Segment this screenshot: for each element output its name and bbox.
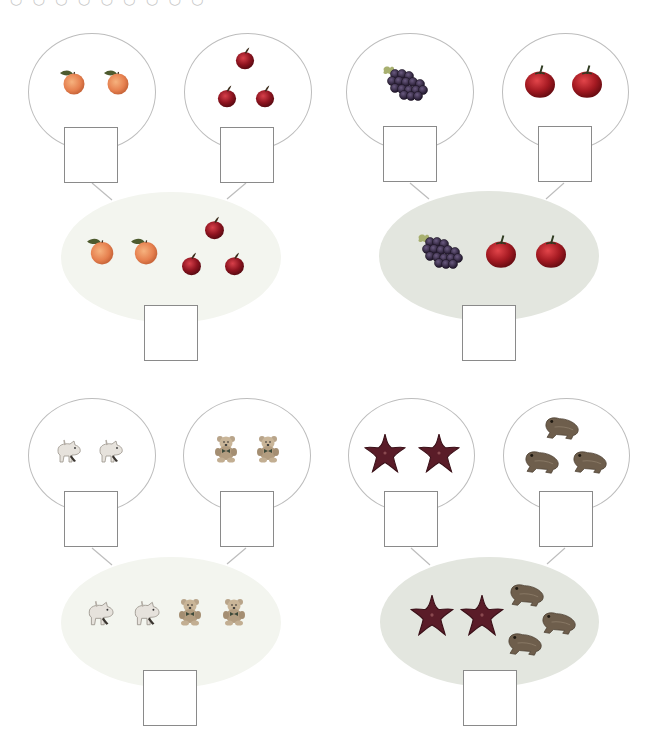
apple-icon bbox=[178, 250, 205, 277]
combined-set-items bbox=[61, 557, 281, 688]
frog-icon bbox=[523, 448, 561, 476]
apple-icon bbox=[221, 250, 248, 277]
combined-set-items bbox=[379, 191, 599, 321]
toy-pig-icon bbox=[54, 436, 84, 466]
combined-set-items bbox=[61, 192, 281, 323]
peach-icon bbox=[85, 234, 117, 266]
tomato-icon bbox=[533, 233, 569, 269]
frog-icon bbox=[543, 414, 581, 442]
toy-pig-icon bbox=[85, 597, 117, 629]
toy-pig-icon bbox=[96, 436, 126, 466]
right-count-answer-box[interactable] bbox=[538, 126, 592, 182]
starfish-icon bbox=[418, 432, 460, 474]
right-count-answer-box[interactable] bbox=[220, 491, 274, 547]
tomato-icon bbox=[569, 63, 605, 99]
teddy-bear-icon bbox=[219, 595, 249, 629]
total-count-answer-box[interactable] bbox=[463, 670, 517, 726]
peach-icon bbox=[102, 66, 132, 96]
total-count-answer-box[interactable] bbox=[462, 305, 516, 361]
apple-icon bbox=[252, 83, 278, 109]
left-count-answer-box[interactable] bbox=[64, 127, 118, 183]
apple-icon bbox=[201, 214, 228, 241]
frog-icon bbox=[540, 609, 578, 637]
peach-icon bbox=[58, 66, 88, 96]
apple-icon bbox=[232, 45, 258, 71]
right-count-answer-box[interactable] bbox=[539, 491, 593, 547]
teddy-bear-icon bbox=[253, 432, 283, 466]
toy-pig-icon bbox=[131, 597, 163, 629]
left-count-answer-box[interactable] bbox=[383, 126, 437, 182]
apple-icon bbox=[214, 83, 240, 109]
teddy-bear-icon bbox=[211, 432, 241, 466]
grape-bunch-icon bbox=[380, 63, 436, 103]
tomato-icon bbox=[522, 63, 558, 99]
teddy-bear-icon bbox=[175, 595, 205, 629]
tomato-icon bbox=[483, 233, 519, 269]
frog-icon bbox=[571, 448, 609, 476]
peach-icon bbox=[129, 234, 161, 266]
right-count-answer-box[interactable] bbox=[220, 127, 274, 183]
grape-bunch-icon bbox=[415, 231, 471, 271]
total-count-answer-box[interactable] bbox=[144, 305, 198, 361]
total-count-answer-box[interactable] bbox=[143, 670, 197, 726]
left-count-answer-box[interactable] bbox=[384, 491, 438, 547]
left-count-answer-box[interactable] bbox=[64, 491, 118, 547]
starfish-icon bbox=[460, 593, 504, 637]
frog-icon bbox=[508, 581, 546, 609]
starfish-icon bbox=[410, 593, 454, 637]
combined-set-items bbox=[380, 557, 599, 687]
frog-icon bbox=[506, 630, 544, 658]
starfish-icon bbox=[364, 432, 406, 474]
